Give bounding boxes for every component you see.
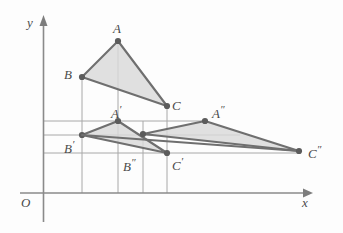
label-b-dprime: B″: [123, 157, 136, 173]
vertex-c-dprime: [296, 148, 302, 154]
vertex-c-prime: [164, 150, 170, 156]
prime-mark: ″: [220, 103, 225, 115]
vertex-c: [164, 103, 170, 109]
label-c-dprime: C″: [308, 144, 322, 160]
y-axis-arrow: [40, 15, 48, 26]
prime-mark: ″: [131, 156, 136, 168]
label-x-axis: x: [302, 196, 308, 209]
label-c: C: [172, 99, 181, 112]
triangle-a1b1c1: [79, 118, 170, 156]
label-b-prime: B′: [64, 139, 75, 155]
label-a-prime: A′: [111, 104, 122, 120]
prime-mark: ″: [317, 143, 322, 155]
geometry-figure: A B C A′ B′ C′ A″ B″ C″ O x y: [0, 0, 343, 233]
label-a: A: [113, 22, 121, 35]
vertex-a-dprime: [202, 118, 208, 124]
label-c-prime: C′: [172, 156, 183, 172]
triangle-abc: [79, 38, 170, 109]
prime-mark: ′: [119, 103, 122, 115]
prime-mark: ′: [72, 138, 75, 150]
prime-mark: ′: [181, 155, 184, 167]
label-b: B: [64, 68, 72, 81]
label-a-dprime: A″: [212, 104, 225, 120]
diagram-canvas: [0, 0, 343, 233]
vertex-b: [79, 74, 85, 80]
label-origin: O: [21, 196, 30, 209]
vertex-b-dprime: [140, 131, 146, 137]
label-y-axis: y: [27, 16, 33, 29]
vertex-a: [115, 38, 121, 44]
